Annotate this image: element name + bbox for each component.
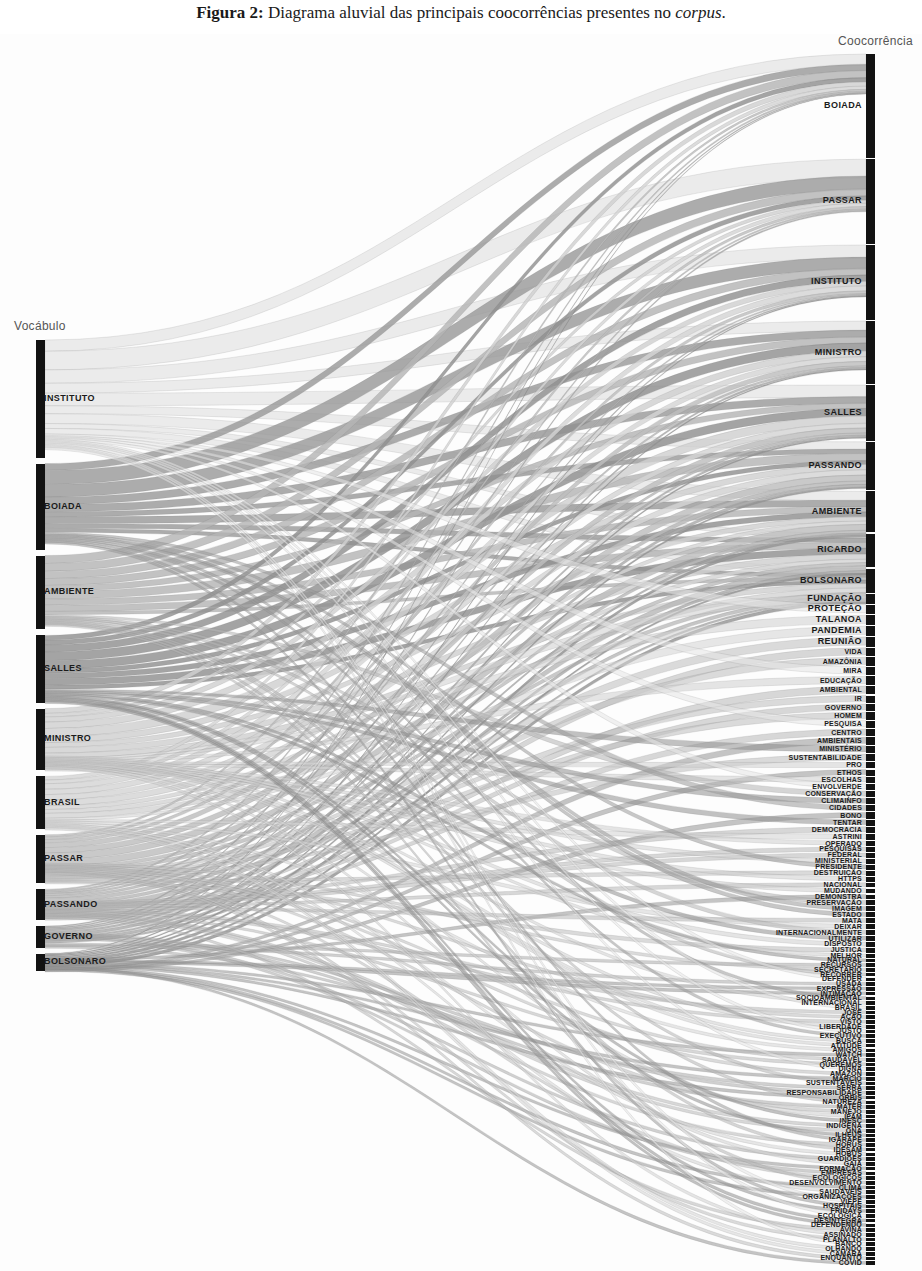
right-node-preservação[interactable]: [866, 900, 875, 905]
right-node-formação[interactable]: [866, 1167, 875, 1171]
right-node-presidente[interactable]: [866, 865, 875, 870]
right-node-socioambiental[interactable]: [866, 997, 875, 1001]
right-node-sustentáveis[interactable]: [866, 1082, 875, 1086]
right-node-atitude[interactable]: [866, 1044, 875, 1048]
right-node-busca[interactable]: [866, 1039, 875, 1043]
right-node-watch[interactable]: [866, 1053, 875, 1057]
right-node-tentar[interactable]: [866, 820, 875, 826]
right-node-utilizar[interactable]: [866, 936, 875, 941]
right-node-igarapé[interactable]: [866, 1138, 875, 1142]
right-node-ir[interactable]: [866, 696, 875, 703]
right-node-mater[interactable]: [866, 1105, 875, 1109]
right-node-hobus[interactable]: [866, 1153, 875, 1157]
right-node-internacionalmente[interactable]: [866, 930, 875, 935]
right-node-responsabilidade[interactable]: [866, 1091, 875, 1095]
right-node-liberdade[interactable]: [866, 1025, 875, 1029]
right-node-ministerial[interactable]: [866, 859, 875, 864]
right-node-mudando[interactable]: [866, 889, 875, 894]
right-node-digna[interactable]: [866, 1067, 875, 1071]
right-node-horus[interactable]: [866, 1143, 875, 1147]
right-node-passar[interactable]: [866, 159, 875, 244]
right-node-internacional[interactable]: [866, 1001, 875, 1005]
right-node-cidades[interactable]: [866, 805, 875, 811]
right-node-assinado[interactable]: [866, 1233, 875, 1237]
right-node-ecológicos[interactable]: [866, 1176, 875, 1180]
right-node-vida[interactable]: [866, 648, 875, 656]
right-node-pandemia[interactable]: [866, 626, 875, 636]
right-node-ambiente[interactable]: [866, 491, 875, 532]
right-node-planalto[interactable]: [866, 1238, 875, 1242]
right-node-secretário[interactable]: [866, 968, 875, 972]
right-node-usada[interactable]: [866, 982, 875, 986]
right-node-bolsonaro[interactable]: [866, 569, 875, 593]
right-node-josé[interactable]: [866, 1011, 875, 1015]
right-node-instituto[interactable]: [866, 245, 875, 320]
right-node-deixar[interactable]: [866, 924, 875, 929]
right-node-amigos[interactable]: [866, 1049, 875, 1053]
right-node-ethos[interactable]: [866, 770, 875, 776]
right-node-ona[interactable]: [866, 1129, 875, 1133]
right-node-executivo[interactable]: [866, 1034, 875, 1038]
right-node-mata[interactable]: [866, 918, 875, 923]
right-node-empresas[interactable]: [866, 1172, 875, 1176]
right-node-desenvolvimento[interactable]: [866, 1181, 875, 1185]
right-node-disposto[interactable]: [866, 942, 875, 947]
right-node-ação[interactable]: [866, 1015, 875, 1019]
right-node-destruição[interactable]: [866, 871, 875, 876]
right-node-nacional[interactable]: [866, 883, 875, 888]
right-node-desintegra[interactable]: [866, 1219, 875, 1223]
right-node-banco[interactable]: [866, 1242, 875, 1246]
right-node-expressão[interactable]: [866, 987, 875, 991]
right-node-amazon[interactable]: [866, 1072, 875, 1076]
right-node-orbis[interactable]: [866, 1096, 875, 1100]
right-node-boiada[interactable]: [866, 54, 875, 158]
right-node-intimação[interactable]: [866, 992, 875, 996]
right-node-homem[interactable]: [866, 712, 875, 719]
right-node-idesam[interactable]: [866, 1148, 875, 1152]
right-node-câmara[interactable]: [866, 1252, 875, 1256]
right-node-climainfo[interactable]: [866, 798, 875, 804]
right-node-astrini[interactable]: [866, 834, 875, 840]
right-node-centro[interactable]: [866, 729, 875, 736]
right-node-governo[interactable]: [866, 704, 875, 711]
right-node-sustentabilidade[interactable]: [866, 754, 875, 761]
right-node-operado[interactable]: [866, 841, 875, 846]
right-node-olhando[interactable]: [866, 1247, 875, 1251]
right-node-pesquisa[interactable]: [866, 721, 875, 728]
right-node-defender[interactable]: [866, 978, 875, 982]
right-node-reunião[interactable]: [866, 637, 875, 647]
right-node-democracia[interactable]: [866, 827, 875, 833]
right-node-amazônia[interactable]: [866, 657, 875, 665]
right-node-covid[interactable]: [866, 1261, 875, 1265]
right-node-ministro[interactable]: [866, 321, 875, 384]
right-node-recursos[interactable]: [866, 963, 875, 967]
right-node-ipam[interactable]: [866, 1115, 875, 1119]
right-node-justo[interactable]: [866, 1030, 875, 1034]
right-node-ministério[interactable]: [866, 746, 875, 753]
right-node-pro[interactable]: [866, 762, 875, 768]
right-node-brasil[interactable]: [866, 1006, 875, 1010]
right-node-ambiental[interactable]: [866, 686, 875, 694]
right-node-viepe[interactable]: [866, 1200, 875, 1204]
right-node-guardiões[interactable]: [866, 1157, 875, 1161]
right-node-estado[interactable]: [866, 912, 875, 917]
right-node-natureza[interactable]: [866, 1101, 875, 1105]
right-node-escolhas[interactable]: [866, 777, 875, 783]
right-node-ecológica[interactable]: [866, 1214, 875, 1218]
right-node-fundação[interactable]: [866, 594, 875, 604]
right-node-avina[interactable]: [866, 1228, 875, 1232]
right-node-gaia[interactable]: [866, 1162, 875, 1166]
right-node-fridays[interactable]: [866, 1209, 875, 1213]
right-node-inesc[interactable]: [866, 1119, 875, 1123]
right-node-mira[interactable]: [866, 667, 875, 675]
right-node-hospitais[interactable]: [866, 1205, 875, 1209]
right-node-indígena[interactable]: [866, 1124, 875, 1128]
right-node-educação[interactable]: [866, 676, 875, 684]
right-node-manejo[interactable]: [866, 1110, 875, 1114]
right-node-ilhéus[interactable]: [866, 1134, 875, 1138]
right-node-envolverde[interactable]: [866, 784, 875, 790]
right-node-enquanto[interactable]: [866, 1257, 875, 1261]
right-node-justiça[interactable]: [866, 948, 875, 953]
right-node-proteção[interactable]: [866, 605, 875, 615]
right-node-recorrer[interactable]: [866, 973, 875, 977]
